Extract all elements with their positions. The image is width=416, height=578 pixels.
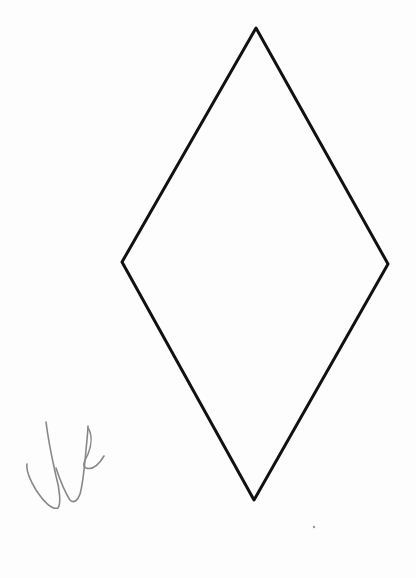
drawing-canvas (0, 0, 416, 578)
handwritten-scribble (27, 422, 104, 508)
rhombus-shape (122, 28, 388, 500)
speck (313, 526, 315, 528)
drawing-svg (0, 0, 416, 578)
